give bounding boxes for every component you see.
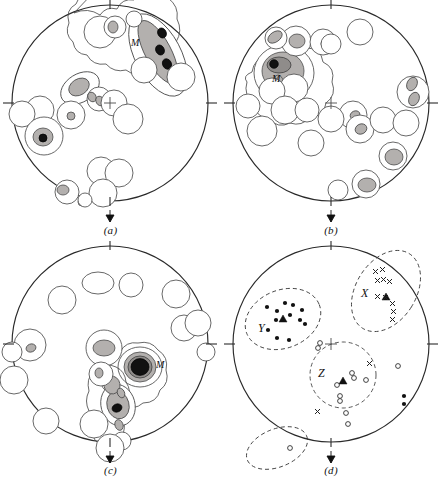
contour-open-b-19	[321, 34, 341, 54]
data-point-open	[350, 371, 355, 376]
contour-open-b-21	[318, 106, 344, 132]
contour-open-c-6	[162, 280, 190, 308]
panel-c-net: M	[0, 241, 221, 483]
data-point-filled	[287, 338, 291, 342]
panel-d-point-group: X Y Z	[224, 238, 438, 478]
data-point-filled	[402, 394, 406, 398]
contour-open-b-8	[295, 98, 319, 122]
data-point-open	[338, 394, 343, 399]
down-arrow-marker	[106, 210, 114, 222]
data-point-filled	[402, 402, 406, 406]
contour-open-b-20	[236, 94, 260, 118]
data-point-filled	[266, 328, 270, 332]
contour-fill-a-5	[67, 112, 75, 120]
data-point-open	[364, 378, 369, 383]
data-point-open	[288, 446, 293, 451]
panel-a-contour-group: M	[3, 0, 217, 222]
data-point-open	[338, 399, 343, 404]
contour-open-c-10	[2, 342, 22, 362]
contour-open-b-6	[347, 19, 373, 45]
contour-open-b-10	[298, 130, 324, 156]
panel-c-contour-group: M	[0, 241, 217, 463]
panel-label-d: (d)	[221, 464, 441, 476]
contour-open-c-13	[80, 410, 108, 438]
down-arrow-marker	[327, 451, 335, 463]
contour-open-c-3	[48, 286, 76, 314]
contour-open-c-8	[185, 310, 211, 336]
panel-d-net: X Y Z	[221, 241, 441, 483]
contour-fill-b-3	[289, 34, 305, 48]
contour-fill-b-11	[358, 178, 376, 192]
contour-open-a-4	[167, 63, 195, 91]
contour-fill-b-10	[385, 149, 403, 165]
panel-label-a: (a)	[0, 224, 221, 236]
panel-d: X Y Z (d)	[221, 241, 441, 483]
contour-open-c-5	[119, 273, 143, 297]
figure-stereographic-panels: M (a)	[0, 0, 441, 483]
data-point-filled	[265, 305, 269, 309]
panel-b-contour-group: M	[224, 0, 438, 222]
contour-open-c-4	[82, 272, 114, 294]
panel-c: M (c)	[0, 241, 221, 483]
contour-open-c-12	[33, 408, 59, 434]
panel-label-b: (b)	[221, 224, 441, 236]
contour-open-a-16	[78, 193, 92, 207]
data-point-filled	[291, 303, 295, 307]
field-label-x: X	[360, 286, 369, 300]
data-point-open	[335, 383, 340, 388]
panel-label-c: (c)	[0, 464, 221, 476]
contour-open-a-3	[126, 11, 142, 27]
contour-open-b-9	[247, 116, 277, 146]
contour-open-c-11	[0, 366, 28, 394]
data-point-filled	[303, 322, 307, 326]
contour-open-b-14	[393, 110, 419, 136]
contour-open-a-9	[113, 104, 143, 134]
down-arrow-marker	[327, 210, 335, 222]
data-point-open	[346, 422, 351, 427]
contour-open-b-13	[370, 107, 396, 133]
data-point-filled	[283, 301, 287, 305]
contour-max-c-1	[131, 359, 149, 376]
max-label-c: M	[155, 359, 165, 370]
data-point-filled	[275, 336, 279, 340]
contour-open-c-15	[197, 343, 215, 361]
max-label-a: M	[130, 37, 140, 48]
contour-fill-a-1	[108, 21, 118, 33]
contour-fill-a-6	[57, 185, 69, 195]
data-point-filled	[288, 313, 292, 317]
data-point-open	[396, 364, 401, 369]
panel-b-net: M	[221, 0, 441, 241]
contour-open-a-5	[131, 57, 157, 83]
data-point-open	[352, 376, 357, 381]
data-point-open	[316, 346, 321, 351]
contour-fill-c-2	[95, 368, 103, 378]
data-point-filled	[275, 309, 279, 313]
data-point-filled	[300, 308, 304, 312]
panel-a-net: M	[0, 0, 221, 241]
data-point-open	[344, 411, 349, 416]
contour-level2-c-2	[93, 340, 115, 356]
contour-open-a-14	[89, 179, 117, 207]
max-label-b: M	[271, 73, 281, 84]
contour-max-b-1	[270, 60, 279, 69]
field-label-z: Z	[318, 366, 325, 380]
data-point-filled	[274, 318, 278, 322]
contour-max-a-4	[39, 134, 47, 142]
panel-a: M (a)	[0, 0, 221, 241]
data-point-open	[318, 341, 323, 346]
panel-b: M (b)	[221, 0, 441, 241]
data-point-filled	[298, 318, 302, 322]
